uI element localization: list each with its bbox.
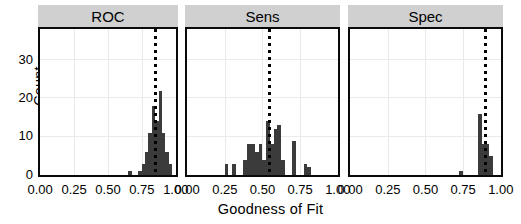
histogram-bar [232,164,236,175]
y-axis-tick-label: 10 [0,131,33,141]
gridline-vertical [74,29,75,175]
histogram-bar [292,141,296,175]
histogram-bar [281,160,285,175]
gridline-vertical [262,29,263,175]
gridline-horizontal [350,59,501,60]
x-axis-tick-label: 0.75 [443,183,483,196]
facet-strip-spec: Spec [348,5,503,27]
histogram-bar [128,171,131,175]
x-axis-tick-label: 0.00 [330,183,370,196]
x-axis-tick-label: 0.25 [205,183,245,196]
facet-strip-roc: ROC [38,5,178,27]
histogram-bar [459,171,463,175]
facet-strip-label: Sens [245,8,279,25]
panel-sens [185,27,340,177]
gridline-vertical [142,29,143,175]
facet-strip-label: Spec [408,8,442,25]
histogram-bar [225,164,229,175]
chart-root: Count 0102030 ROCSensSpec 0.000.250.500.… [0,0,521,224]
x-axis-tick-label: 0.25 [368,183,408,196]
histogram-bar [169,164,172,175]
gridline-vertical [108,29,109,175]
plot-area [40,29,176,175]
gridline-horizontal [187,59,338,60]
gridline-vertical [300,29,301,175]
facet-strip-label: ROC [91,8,124,25]
y-axis-tick-label: 20 [0,93,33,103]
x-axis-tick-label: 0.50 [243,183,283,196]
plot-area [350,29,501,175]
plot-area [187,29,338,175]
histogram-bar [307,167,311,175]
gridline-vertical [463,29,464,175]
median-line [268,29,271,175]
x-axis-tick-label: 1.00 [481,183,521,196]
x-axis-label: Goodness of Fit [38,201,503,217]
gridline-vertical [425,29,426,175]
histogram-bar [489,156,493,175]
y-axis-tick-label: 30 [0,55,33,65]
median-line [484,29,487,175]
gridline-horizontal [187,97,338,98]
median-line [154,29,157,175]
x-axis-tick-label: 0.50 [406,183,446,196]
gridline-vertical [388,29,389,175]
gridline-horizontal [350,97,501,98]
facet-strip-sens: Sens [185,5,340,27]
gridline-horizontal [187,136,338,137]
panel-roc [38,27,178,177]
x-axis-tick-label: 0.00 [167,183,207,196]
gridline-vertical [225,29,226,175]
y-axis-tick-label: 0 [0,170,33,180]
x-axis-tick-label: 0.75 [280,183,320,196]
panel-spec [348,27,503,177]
